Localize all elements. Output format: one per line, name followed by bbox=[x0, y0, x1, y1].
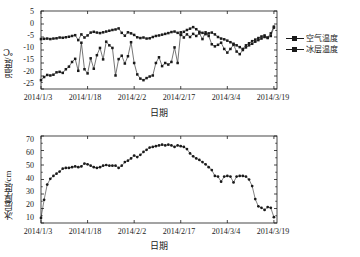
legend-item-ice-temperature[interactable]: 冰层温度 bbox=[286, 44, 338, 54]
temperature-chart-panel: 温度/℃ 5 0 -5 -10 -15 -20 -25 2014/1/3 201… bbox=[0, 0, 360, 128]
legend-label-air-temperature: 空气温度 bbox=[306, 34, 338, 43]
ice-thickness-plot-area bbox=[0, 128, 360, 257]
ice-thickness-chart-panel: 冰层厚度/cm 70 60 50 40 30 20 10 2014/1/3 20… bbox=[0, 128, 360, 257]
line-square-marker-icon bbox=[286, 34, 304, 43]
legend-item-air-temperature[interactable]: 空气温度 bbox=[286, 33, 338, 43]
temperature-x-axis-title: 日期 bbox=[119, 106, 199, 119]
figure-container: 温度/℃ 5 0 -5 -10 -15 -20 -25 2014/1/3 201… bbox=[0, 0, 360, 257]
ice-thickness-x-tick-5: 2014/3/19 bbox=[239, 227, 307, 236]
temperature-legend: 空气温度 冰层温度 bbox=[286, 33, 338, 55]
legend-label-ice-temperature: 冰层温度 bbox=[306, 45, 338, 54]
temperature-x-tick-5: 2014/3/19 bbox=[239, 93, 307, 102]
ice-thickness-x-axis-title: 日期 bbox=[119, 239, 199, 252]
line-square-marker-icon bbox=[286, 45, 304, 54]
